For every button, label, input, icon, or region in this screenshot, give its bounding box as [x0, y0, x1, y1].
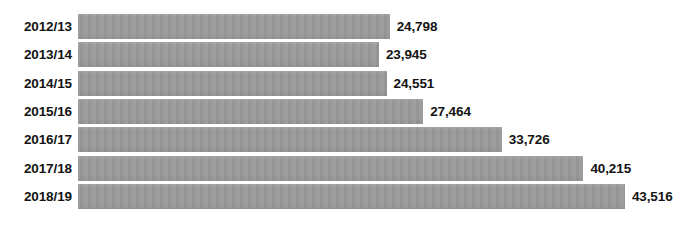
- bar-value-label: 40,215: [590, 156, 631, 181]
- category-label: 2017/18: [0, 156, 72, 181]
- bar-shading: [78, 71, 387, 96]
- bar-value-label: 43,516: [632, 184, 673, 209]
- bar-value-label: 24,551: [394, 71, 435, 96]
- bar-row: 2012/1324,798: [0, 14, 688, 39]
- bar-value-label: 33,726: [509, 127, 550, 152]
- bar-row: 2014/1524,551: [0, 71, 688, 96]
- bar: [78, 127, 502, 152]
- bar-shading: [78, 184, 625, 209]
- bar-shading: [78, 99, 423, 124]
- category-label: 2016/17: [0, 127, 72, 152]
- bar: [78, 14, 390, 39]
- bar-row: 2017/1840,215: [0, 156, 688, 181]
- bar: [78, 99, 423, 124]
- category-label: 2013/14: [0, 42, 72, 67]
- bar-row: 2013/1423,945: [0, 42, 688, 67]
- category-label: 2015/16: [0, 99, 72, 124]
- bar-value-label: 27,464: [430, 99, 471, 124]
- bar-row: 2015/1627,464: [0, 99, 688, 124]
- bar-value-label: 23,945: [386, 42, 427, 67]
- bar-shading: [78, 127, 502, 152]
- category-label: 2012/13: [0, 14, 72, 39]
- bar-shading: [78, 14, 390, 39]
- bar: [78, 42, 379, 67]
- category-label: 2018/19: [0, 184, 72, 209]
- category-label: 2014/15: [0, 71, 72, 96]
- bar-row: 2018/1943,516: [0, 184, 688, 209]
- horizontal-bar-chart: 2012/1324,7982013/1423,9452014/1524,5512…: [0, 0, 688, 232]
- bar: [78, 156, 583, 181]
- bar-value-label: 24,798: [397, 14, 438, 39]
- bar-shading: [78, 156, 583, 181]
- bar-shading: [78, 42, 379, 67]
- bar: [78, 184, 625, 209]
- bar-row: 2016/1733,726: [0, 127, 688, 152]
- bar: [78, 71, 387, 96]
